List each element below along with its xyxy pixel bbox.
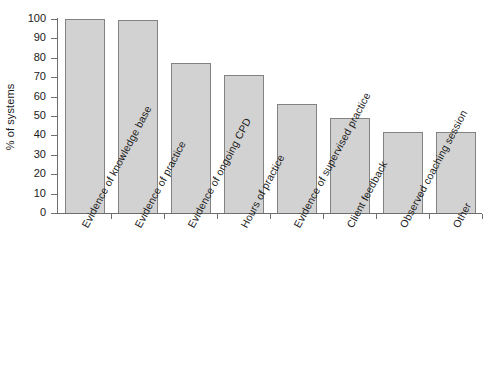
y-axis-tick — [51, 97, 57, 98]
y-axis-tick — [51, 116, 57, 117]
x-axis-tick — [482, 214, 483, 219]
y-axis-tick-label: 40 — [6, 129, 46, 140]
y-axis-tick — [51, 135, 57, 136]
x-axis-tick — [111, 214, 112, 219]
y-axis-tick — [51, 77, 57, 78]
x-axis-tick — [376, 214, 377, 219]
y-axis-tick — [51, 174, 57, 175]
x-axis-tick — [270, 214, 271, 219]
y-axis-tick-label: 100 — [6, 13, 46, 24]
bar-chart-figure: % of systems 0102030405060708090100 Evid… — [0, 0, 501, 381]
y-axis-tick — [51, 58, 57, 59]
y-axis-tick-label: 60 — [6, 91, 46, 102]
y-axis-tick — [51, 213, 57, 214]
x-axis-tick — [217, 214, 218, 219]
y-axis-tick-label: 50 — [6, 110, 46, 121]
x-axis-tick — [323, 214, 324, 219]
y-axis-tick — [51, 194, 57, 195]
y-axis-tick-label: 70 — [6, 71, 46, 82]
x-axis-tick — [429, 214, 430, 219]
y-axis-tick-label: 80 — [6, 52, 46, 63]
y-axis-tick-label: 20 — [6, 168, 46, 179]
x-axis-tick — [164, 214, 165, 219]
y-axis-tick — [51, 38, 57, 39]
y-axis-tick — [51, 19, 57, 20]
y-axis-tick-label: 0 — [6, 207, 46, 218]
y-axis-line — [57, 18, 58, 214]
y-axis-tick-label: 90 — [6, 32, 46, 43]
y-axis-tick-label: 30 — [6, 149, 46, 160]
y-axis-tick-label: 10 — [6, 188, 46, 199]
y-axis-tick — [51, 155, 57, 156]
